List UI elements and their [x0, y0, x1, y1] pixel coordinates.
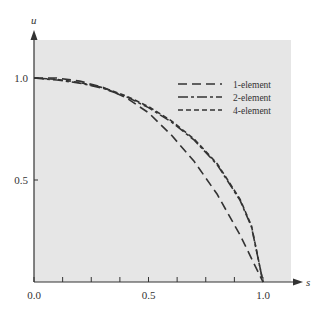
plot-background: [34, 40, 291, 282]
x-tick-label: 0.0: [27, 289, 41, 301]
x-axis-label: s: [306, 276, 310, 288]
x-tick-label: 0.5: [142, 289, 156, 301]
y-tick-label: 1.0: [14, 72, 28, 84]
x-axis-arrow-icon: [293, 279, 303, 286]
legend-label-2-element: 2-element: [233, 93, 271, 103]
legend-label-4-element: 4-element: [233, 106, 271, 116]
y-axis-arrow-icon: [31, 30, 38, 40]
legend-label-1-element: 1-element: [233, 80, 271, 90]
chart: s u 0.00.51.00.51.0 1-element2-element4-…: [0, 0, 320, 310]
y-axis-label: u: [31, 14, 37, 26]
y-tick-label: 0.5: [14, 174, 28, 186]
x-tick-label: 1.0: [256, 289, 270, 301]
